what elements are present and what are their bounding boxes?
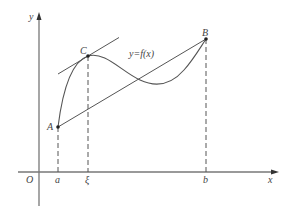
tick-label-b: b (203, 175, 208, 185)
point-a-label: A (47, 122, 53, 132)
y-axis (37, 12, 42, 206)
point-a (56, 125, 60, 129)
y-axis-label: y (29, 12, 33, 22)
y-axis-arrow-icon (37, 12, 42, 20)
mean-value-theorem-diagram: y x O A C B a ξ b y=f(x) (0, 0, 289, 214)
curve-label: y=f(x) (129, 49, 154, 59)
origin-label: O (26, 175, 33, 185)
tick-label-xi: ξ (85, 175, 89, 185)
x-axis-arrow-icon (271, 170, 279, 175)
x-axis-label: x (268, 175, 272, 185)
point-c-label: C (80, 46, 87, 56)
tick-label-a: a (55, 175, 60, 185)
diagram-canvas (0, 0, 289, 214)
point-b-label: B (202, 28, 208, 38)
